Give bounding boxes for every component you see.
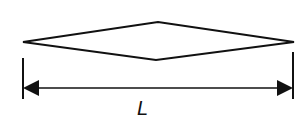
right-arrowhead-icon [277, 80, 293, 96]
rhombus-shape [23, 22, 294, 60]
left-arrowhead-icon [23, 80, 39, 96]
length-diagram [0, 0, 307, 122]
length-label: L [137, 98, 148, 118]
